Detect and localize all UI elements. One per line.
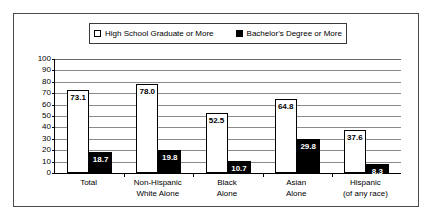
chart-figure: High School Graduate or More Bachelor's …: [13, 13, 419, 207]
x-axis-label-line1: Total: [80, 178, 97, 187]
bar-value-label: 52.5: [207, 117, 227, 125]
bar[interactable]: 64.8: [275, 99, 297, 173]
bar[interactable]: 8.3: [366, 164, 389, 173]
bar[interactable]: 29.8: [297, 139, 320, 173]
y-axis-tick-mark: [52, 173, 55, 174]
bar[interactable]: 19.8: [158, 150, 181, 173]
bar-value-label: 64.8: [276, 103, 296, 111]
y-axis-tick-label: 0: [47, 169, 51, 177]
y-axis-tick-label: 70: [42, 89, 51, 97]
x-axis-label-line1: Hispanic: [350, 178, 381, 187]
x-axis-label-line2: Alone: [262, 188, 331, 199]
legend-label-high-school: High School Graduate or More: [105, 30, 214, 38]
bar[interactable]: 37.6: [344, 130, 366, 173]
y-axis-tick-label: 90: [42, 66, 51, 74]
legend-label-bachelors: Bachelor's Degree or More: [247, 30, 342, 38]
x-axis-label-line1: Black: [217, 178, 237, 187]
plot-area: 1009080706050403020100 73.118.778.019.85…: [54, 59, 401, 174]
bar[interactable]: 18.7: [89, 152, 112, 173]
y-axis-tick-label: 10: [42, 158, 51, 166]
x-axis-category-label: BlackAlone: [192, 177, 261, 199]
x-axis-label-line1: Non-Hispanic: [134, 178, 182, 187]
bars-layer: 73.118.778.019.852.510.764.829.837.68.3: [55, 59, 401, 173]
bar-value-label: 37.6: [345, 134, 365, 142]
bar-group: 52.510.7: [206, 59, 251, 173]
y-axis-tick-label: 60: [42, 101, 51, 109]
x-axis-category-label: Non-HispanicWhite Alone: [123, 177, 192, 199]
bar-group: 78.019.8: [136, 59, 181, 173]
legend-swatch-hollow-icon: [94, 30, 101, 37]
x-axis-category-label: Hispanic(of any race): [331, 177, 400, 199]
legend-swatch-filled-icon: [236, 30, 243, 37]
bar-value-label: 29.8: [298, 143, 319, 151]
bar-value-label: 73.1: [68, 94, 88, 102]
bar-group: 73.118.7: [67, 59, 112, 173]
bar[interactable]: 10.7: [228, 161, 251, 173]
x-axis-category-label: Total: [54, 177, 123, 188]
y-axis-tick-label: 20: [42, 146, 51, 154]
bar-value-label: 78.0: [137, 88, 157, 96]
x-axis-category-label: AsianAlone: [262, 177, 331, 199]
y-axis-tick-label: 80: [42, 78, 51, 86]
bar[interactable]: 78.0: [136, 84, 158, 173]
x-axis-label-line2: Alone: [192, 188, 261, 199]
x-axis-labels: TotalNon-HispanicWhite AloneBlackAloneAs…: [54, 177, 400, 205]
bar[interactable]: 52.5: [206, 113, 228, 173]
bar-value-label: 8.3: [367, 168, 388, 176]
bar-group: 37.68.3: [344, 59, 389, 173]
bar[interactable]: 73.1: [67, 90, 89, 173]
bar-value-label: 10.7: [229, 165, 250, 173]
bar-value-label: 19.8: [159, 154, 180, 162]
bar-group: 64.829.8: [275, 59, 320, 173]
y-axis-tick-label: 100: [38, 55, 51, 63]
x-axis-label-line1: Asian: [286, 178, 306, 187]
x-axis-label-line2: White Alone: [123, 188, 192, 199]
chart-legend: High School Graduate or More Bachelor's …: [89, 23, 347, 44]
bar-value-label: 18.7: [90, 156, 111, 164]
legend-item-high-school: High School Graduate or More: [94, 30, 214, 38]
legend-item-bachelors: Bachelor's Degree or More: [236, 30, 342, 38]
y-axis-tick-label: 30: [42, 135, 51, 143]
y-axis-tick-label: 40: [42, 123, 51, 131]
x-axis-label-line2: (of any race): [331, 188, 400, 199]
y-axis-tick-label: 50: [42, 112, 51, 120]
